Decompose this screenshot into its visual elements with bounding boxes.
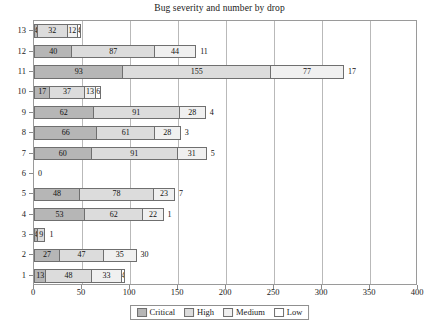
bar-value-label: 30 [137, 251, 149, 259]
chart-legend: CriticalHighMediumLow [130, 305, 310, 320]
y-axis-label: 10 [18, 87, 27, 96]
legend-label: Low [287, 308, 303, 317]
bar-row: 40874411 [34, 45, 416, 59]
x-axis-label: 100 [123, 288, 136, 297]
bar-value-label: 7 [175, 190, 183, 198]
y-axis-tick [29, 193, 33, 194]
bar-segment-low: 4 [77, 24, 81, 38]
x-axis-label: 50 [77, 288, 86, 297]
bar-value-label: 3 [181, 129, 189, 137]
bar-segment-high: 62 [84, 208, 144, 222]
bar-segment-critical: 93 [34, 65, 123, 79]
y-axis-tick [29, 132, 33, 133]
x-axis-tick [369, 285, 370, 289]
bar-value-label: 11 [196, 48, 208, 56]
bar-segment-medium: 22 [142, 208, 163, 222]
bar-segment-medium: 28 [179, 106, 206, 120]
y-axis: 13121110987654321 [0, 20, 30, 285]
bar-segment-high: 155 [122, 65, 271, 79]
x-axis-label: 300 [315, 288, 328, 297]
x-axis-label: 200 [219, 288, 232, 297]
legend-swatch-icon [137, 308, 147, 317]
bar-row: 0 [34, 167, 416, 181]
bar-segment-high: 78 [79, 188, 154, 202]
legend-swatch-icon [274, 308, 284, 317]
y-axis-tick [29, 51, 33, 52]
y-axis-label: 6 [22, 169, 26, 178]
x-axis-label: 250 [267, 288, 280, 297]
bar-segment-critical: 17 [34, 86, 50, 100]
bar-segment-high: 32 [37, 24, 68, 38]
y-axis-label: 13 [18, 26, 27, 35]
bar-segment-critical: 66 [34, 126, 97, 140]
legend-swatch-icon [223, 308, 233, 317]
plot-area: 4321244087441193155771717371366291284666… [33, 20, 417, 285]
x-axis-tick [273, 285, 274, 289]
y-axis-tick [29, 71, 33, 72]
bar-segment-high: 9 [37, 228, 46, 242]
y-axis-tick [29, 254, 33, 255]
bar-segment-critical: 62 [34, 106, 94, 120]
bar-row: 6661283 [34, 126, 416, 140]
y-axis-label: 11 [18, 67, 26, 76]
bar-value-label: 4 [206, 109, 214, 117]
bar-row: 6091315 [34, 147, 416, 161]
bar-segment-medium: 44 [154, 45, 196, 59]
bar-segment-high: 61 [96, 126, 155, 140]
legend-swatch-icon [184, 308, 194, 317]
bar-row: 5362221 [34, 208, 416, 222]
y-axis-label: 1 [22, 271, 26, 280]
bar-segment-low: 4 [121, 269, 125, 283]
bar-segment-critical: 40 [34, 45, 72, 59]
legend-item-high[interactable]: High [184, 308, 214, 317]
bar-row: 27473530 [34, 249, 416, 263]
bar-segment-critical: 60 [34, 147, 92, 161]
x-axis-tick [129, 285, 130, 289]
y-axis-tick [29, 275, 33, 276]
bar-row: 931557717 [34, 65, 416, 79]
x-axis-tick [177, 285, 178, 289]
bar-value-label: 0 [34, 170, 42, 178]
bar-segment-low: 6 [95, 86, 101, 100]
bar-segment-high: 91 [93, 106, 180, 120]
bar-segment-medium: 31 [177, 147, 207, 161]
chart-container: Bug severity and number by drop 13121110… [0, 0, 439, 331]
bar-row: 6291284 [34, 106, 416, 120]
legend-item-low[interactable]: Low [274, 308, 303, 317]
x-axis-label: 400 [411, 288, 424, 297]
y-axis-label: 9 [22, 107, 26, 116]
bar-segment-high: 87 [71, 45, 155, 59]
y-axis-label: 3 [22, 230, 26, 239]
x-axis-tick [81, 285, 82, 289]
legend-label: Critical [150, 308, 176, 317]
bar-rows: 4321244087441193155771717371366291284666… [34, 21, 416, 284]
y-axis-label: 2 [22, 250, 26, 259]
legend-label: Medium [236, 308, 265, 317]
bar-segment-high: 37 [49, 86, 85, 100]
y-axis-tick [29, 173, 33, 174]
bar-segment-medium: 77 [270, 65, 344, 79]
y-axis-label: 4 [22, 209, 26, 218]
y-axis-tick [29, 91, 33, 92]
x-axis-label: 0 [31, 288, 35, 297]
legend-label: High [197, 308, 214, 317]
bar-segment-high: 91 [91, 147, 178, 161]
x-axis-label: 350 [363, 288, 376, 297]
chart-title: Bug severity and number by drop [0, 3, 439, 13]
bar-segment-medium: 23 [153, 188, 175, 202]
bar-segment-medium: 28 [154, 126, 181, 140]
legend-item-medium[interactable]: Medium [223, 308, 265, 317]
x-axis-tick [321, 285, 322, 289]
y-axis-tick [29, 214, 33, 215]
bar-row: 1737136 [34, 86, 416, 100]
bar-segment-critical: 27 [34, 249, 60, 263]
bar-segment-high: 47 [59, 249, 104, 263]
bar-segment-medium: 33 [91, 269, 123, 283]
y-axis-tick [29, 30, 33, 31]
x-axis-tick [33, 285, 34, 289]
legend-item-critical[interactable]: Critical [137, 308, 176, 317]
bar-row: 4878237 [34, 188, 416, 202]
y-axis-label: 12 [18, 46, 27, 55]
bar-value-label: 17 [344, 68, 356, 76]
bar-segment-medium: 35 [103, 249, 137, 263]
